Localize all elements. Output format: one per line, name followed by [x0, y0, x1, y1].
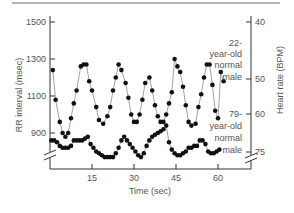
- label-young-line-4: male: [222, 72, 242, 82]
- y-axis-left-title: RR interval (msec): [14, 58, 24, 133]
- chart-canvas: 9001100130015004050607515304560 Time (se…: [0, 0, 294, 213]
- data-point: [164, 123, 169, 128]
- data-point: [167, 140, 172, 145]
- data-point: [111, 88, 116, 93]
- data-point: [217, 147, 222, 152]
- data-point: [140, 97, 145, 102]
- data-point: [175, 64, 180, 69]
- y-tick-label-right: 60: [255, 109, 265, 119]
- data-point: [150, 88, 155, 93]
- data-point: [114, 75, 119, 80]
- y-axis-right-title: Heart rate (BPM): [275, 46, 285, 114]
- data-point: [116, 62, 121, 67]
- data-point: [210, 83, 215, 88]
- data-point: [200, 138, 205, 143]
- series-line: [53, 59, 224, 137]
- label-young-line-1: 22-: [229, 38, 242, 48]
- data-point: [213, 109, 218, 114]
- data-point: [193, 122, 198, 127]
- series-79-year-old: [49, 123, 222, 159]
- label-young-line-2: year-old: [209, 49, 242, 59]
- data-point: [184, 149, 189, 154]
- data-point: [184, 103, 189, 108]
- data-point: [170, 90, 175, 95]
- series-22-year-old: [51, 57, 226, 139]
- data-point: [172, 57, 177, 62]
- data-point: [195, 144, 200, 149]
- data-point: [122, 134, 127, 139]
- data-point: [130, 146, 135, 151]
- data-point: [74, 88, 79, 93]
- data-point: [72, 101, 77, 106]
- y-tick-label-left: 1300: [26, 54, 46, 64]
- data-point: [128, 142, 133, 147]
- data-point: [125, 138, 130, 143]
- x-tick-label: 45: [171, 173, 181, 183]
- data-point: [178, 70, 183, 75]
- data-point: [199, 92, 204, 97]
- data-point: [60, 131, 65, 136]
- data-point: [88, 142, 93, 147]
- data-point: [119, 68, 124, 73]
- data-point: [164, 112, 169, 117]
- data-point: [86, 134, 91, 139]
- x-axis-title: Time (sec): [129, 186, 171, 196]
- label-young-male: 22- year-old normal male: [209, 38, 242, 82]
- label-old-line-3: normal: [214, 133, 242, 143]
- x-tick-label: 15: [87, 173, 97, 183]
- data-point: [108, 105, 113, 110]
- data-point: [203, 142, 208, 147]
- data-point: [129, 112, 134, 117]
- y-tick-label-right: 50: [255, 74, 265, 84]
- data-point: [133, 149, 138, 154]
- data-point: [91, 146, 96, 151]
- data-point: [116, 146, 121, 151]
- data-point: [101, 122, 106, 127]
- data-point: [196, 105, 201, 110]
- data-point: [139, 155, 144, 160]
- data-point: [119, 138, 124, 143]
- data-point: [87, 79, 92, 84]
- data-point: [51, 68, 56, 73]
- data-point: [69, 144, 74, 149]
- data-point: [167, 101, 172, 106]
- x-tick-label: 30: [129, 173, 139, 183]
- data-point: [114, 151, 119, 156]
- data-point: [123, 81, 128, 86]
- data-point: [144, 144, 149, 149]
- data-point: [170, 147, 175, 152]
- y-tick-label-right: 75: [255, 147, 265, 157]
- data-point: [186, 120, 191, 125]
- data-point: [66, 131, 71, 136]
- data-point: [143, 81, 148, 86]
- data-point: [137, 112, 142, 117]
- data-point: [202, 75, 207, 80]
- data-point: [90, 88, 95, 93]
- label-old-line-1: 79-: [229, 109, 242, 119]
- y-tick-label-left: 1100: [27, 91, 46, 101]
- label-old-line-4: male: [222, 145, 242, 155]
- y-tick-label-left: 1500: [26, 17, 46, 27]
- data-point: [105, 114, 110, 119]
- data-point: [58, 120, 63, 125]
- data-point: [161, 120, 166, 125]
- data-point: [126, 96, 131, 101]
- data-point: [216, 116, 221, 121]
- data-point: [63, 134, 68, 139]
- data-point: [55, 140, 60, 145]
- data-point: [161, 127, 166, 132]
- data-point: [147, 75, 152, 80]
- label-young-line-3: normal: [214, 60, 242, 70]
- label-old-line-2: year-old: [209, 121, 242, 131]
- data-point: [111, 155, 116, 160]
- y-tick-label-left: 900: [31, 128, 46, 138]
- data-point: [84, 62, 89, 67]
- data-point: [189, 123, 194, 128]
- data-point: [142, 151, 147, 156]
- label-old-male: 79- year-old normal male: [209, 109, 242, 155]
- data-point: [53, 97, 58, 102]
- data-point: [97, 118, 102, 123]
- data-point: [147, 138, 152, 143]
- data-point: [94, 105, 99, 110]
- data-point: [135, 120, 140, 125]
